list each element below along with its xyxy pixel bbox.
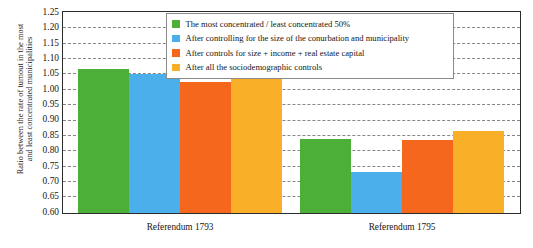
y-axis-tick-label: 0.70 bbox=[25, 177, 59, 186]
bar bbox=[351, 172, 402, 213]
legend-swatch-amber bbox=[172, 64, 180, 72]
legend: The most concentrated / least concentrat… bbox=[166, 13, 454, 79]
legend-swatch-green bbox=[172, 20, 180, 28]
y-axis-tick-label: 1.10 bbox=[25, 54, 59, 63]
y-axis-tick-label: 0.95 bbox=[25, 100, 59, 109]
y-axis-tick-label: 1.15 bbox=[25, 39, 59, 48]
y-axis-tick-label: 0.60 bbox=[25, 208, 59, 217]
y-axis-tick-label: 1.00 bbox=[25, 85, 59, 94]
legend-item[interactable]: The most concentrated / least concentrat… bbox=[172, 17, 447, 31]
x-axis-group-label: Referendum 1793 bbox=[120, 222, 240, 232]
bar bbox=[129, 74, 180, 213]
legend-item-label: After controlling for the size of the co… bbox=[186, 34, 410, 43]
y-axis-tick-label: 1.25 bbox=[25, 8, 59, 17]
y-axis-tick-label: 0.90 bbox=[25, 115, 59, 124]
y-axis-tick-label: 0.85 bbox=[25, 131, 59, 140]
y-axis-tick-labels: 1.251.201.151.101.051.000.950.900.850.80… bbox=[20, 11, 59, 214]
y-axis-tick-label: 0.75 bbox=[25, 162, 59, 171]
legend-swatch-orange bbox=[172, 49, 180, 57]
y-axis-tick-label: 1.05 bbox=[25, 69, 59, 78]
y-axis-tick-label: 0.80 bbox=[25, 146, 59, 155]
bar bbox=[180, 82, 231, 213]
legend-item[interactable]: After controls for size + income + real … bbox=[172, 46, 447, 60]
x-axis-group-label: Referendum 1795 bbox=[342, 222, 462, 232]
bar bbox=[78, 69, 129, 213]
bar bbox=[231, 76, 282, 213]
legend-item-label: The most concentrated / least concentrat… bbox=[186, 20, 351, 29]
bar bbox=[402, 140, 453, 213]
bar-chart: Ratio between the rate of turnout in the… bbox=[0, 0, 533, 248]
bar bbox=[300, 139, 351, 213]
legend-item[interactable]: After controlling for the size of the co… bbox=[172, 31, 447, 45]
bar bbox=[453, 131, 504, 213]
legend-item-label: After controls for size + income + real … bbox=[186, 49, 365, 58]
y-axis-tick-label: 1.20 bbox=[25, 23, 59, 32]
y-axis-tick-label: 0.65 bbox=[25, 192, 59, 201]
legend-item[interactable]: After all the sociodemographic controls bbox=[172, 60, 447, 74]
legend-item-label: After all the sociodemographic controls bbox=[186, 63, 323, 72]
legend-swatch-blue bbox=[172, 35, 180, 43]
